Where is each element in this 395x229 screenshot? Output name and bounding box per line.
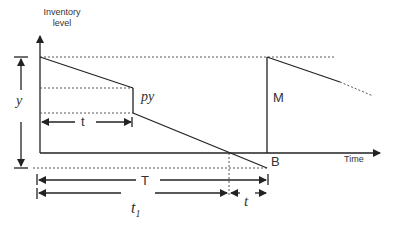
label-y: y	[16, 94, 22, 108]
label-t-inner: t	[81, 115, 85, 128]
x-axis-label: Time	[344, 155, 364, 164]
y-axis-label-line2: level	[42, 19, 82, 28]
y-axis-label-line1: Inventory	[42, 8, 82, 17]
label-t-shortage: t	[244, 194, 248, 209]
label-B: B	[271, 155, 280, 168]
inventory-diagram	[0, 0, 395, 229]
label-t1: t1	[131, 200, 140, 219]
y-axis-label: Inventory level	[42, 8, 82, 28]
label-py: py	[141, 90, 154, 104]
label-M: M	[273, 91, 284, 104]
label-T: T	[141, 174, 149, 187]
label-t1-sub: 1	[135, 208, 140, 219]
